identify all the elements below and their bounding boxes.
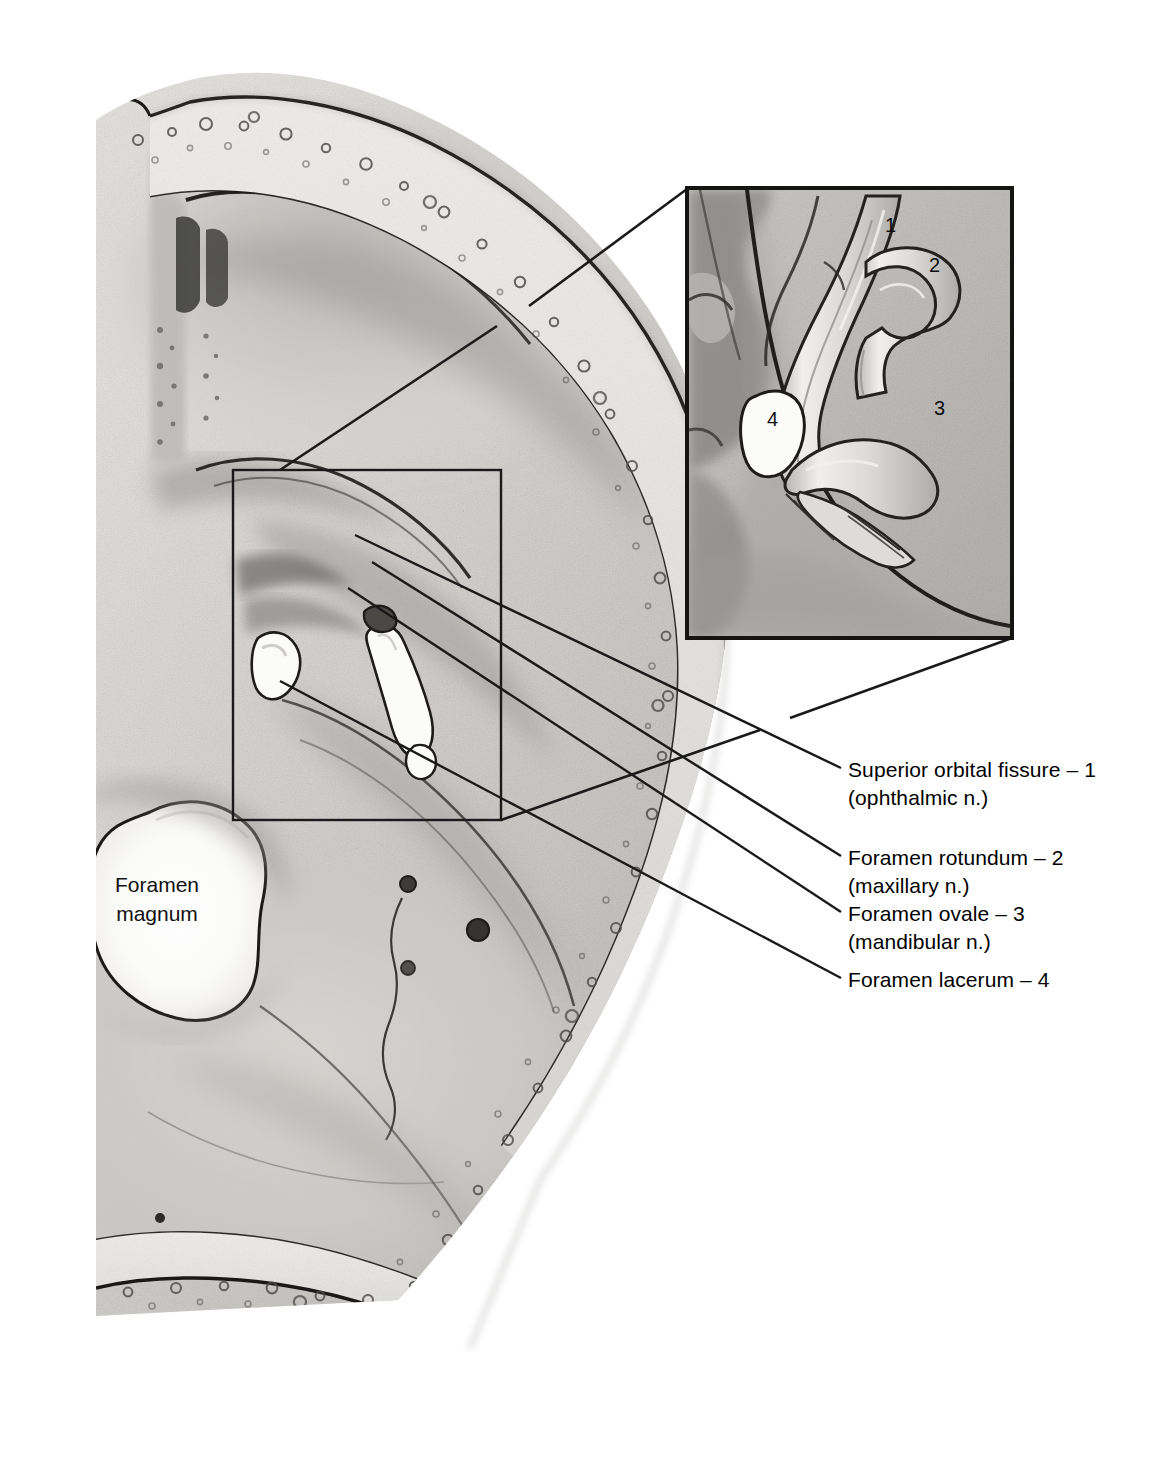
label-line-secondary: (maxillary n.) bbox=[848, 872, 1148, 900]
label-line-secondary: (mandibular n.) bbox=[848, 928, 1148, 956]
foramen-magnum-label: Foramen magnum bbox=[72, 870, 242, 928]
foramen-magnum-label-line2: magnum bbox=[72, 899, 242, 928]
label-line-secondary: (ophthalmic n.) bbox=[848, 784, 1148, 812]
inset-marker-3: 3 bbox=[934, 398, 945, 418]
label-foramen-ovale: Foramen ovale – 3 (mandibular n.) bbox=[848, 900, 1148, 956]
label-line-primary: Foramen ovale – 3 bbox=[848, 900, 1148, 928]
inset-marker-4: 4 bbox=[767, 409, 778, 429]
label-line-primary: Foramen lacerum – 4 bbox=[848, 966, 1148, 994]
foramen-magnum-label-line1: Foramen bbox=[72, 870, 242, 899]
inset-panel bbox=[686, 188, 1012, 638]
label-foramen-lacerum: Foramen lacerum – 4 bbox=[848, 966, 1148, 994]
label-foramen-rotundum: Foramen rotundum – 2 (maxillary n.) bbox=[848, 844, 1148, 900]
label-superior-orbital-fissure: Superior orbital fissure – 1 (ophthalmic… bbox=[848, 756, 1148, 812]
cranium-group bbox=[20, 73, 729, 1348]
label-line-primary: Foramen rotundum – 2 bbox=[848, 844, 1148, 872]
skull-base-illustration bbox=[0, 0, 1157, 1478]
label-line-primary: Superior orbital fissure – 1 bbox=[848, 756, 1148, 784]
inset-marker-1: 1 bbox=[885, 215, 896, 235]
figure-page: 1 2 3 4 Foramen magnum Superior orbital … bbox=[0, 0, 1157, 1478]
inset-marker-2: 2 bbox=[929, 255, 940, 275]
